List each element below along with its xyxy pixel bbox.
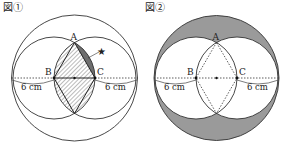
label-c-2: C [239, 67, 246, 77]
point-c [94, 77, 97, 80]
star-icon: ★ [97, 46, 106, 57]
label-c: C [97, 67, 104, 77]
right-measure-label-2: 6 cm [247, 82, 268, 92]
point-center-2 [215, 77, 217, 79]
right-measure-label: 6 cm [105, 82, 126, 92]
point-b-2 [195, 77, 198, 80]
label-a-2: A [212, 32, 220, 42]
figure-1: 図① A B C ★ 6 cm 6 cm [3, 2, 138, 141]
left-measure-label-2: 6 cm [164, 82, 185, 92]
figure-2: 図② A B C 6 cm 6 cm [145, 2, 279, 141]
label-b-2: B [187, 67, 194, 77]
point-b [53, 77, 56, 80]
diagram-canvas: 図① A B C ★ 6 cm 6 cm 図② [0, 0, 282, 152]
label-b: B [45, 67, 52, 77]
figure-2-title: 図② [145, 2, 165, 13]
left-measure-label: 6 cm [21, 82, 42, 92]
label-a: A [70, 32, 78, 42]
point-c-2 [236, 77, 239, 80]
figure-1-title: 図① [3, 2, 23, 13]
point-center [73, 77, 75, 79]
